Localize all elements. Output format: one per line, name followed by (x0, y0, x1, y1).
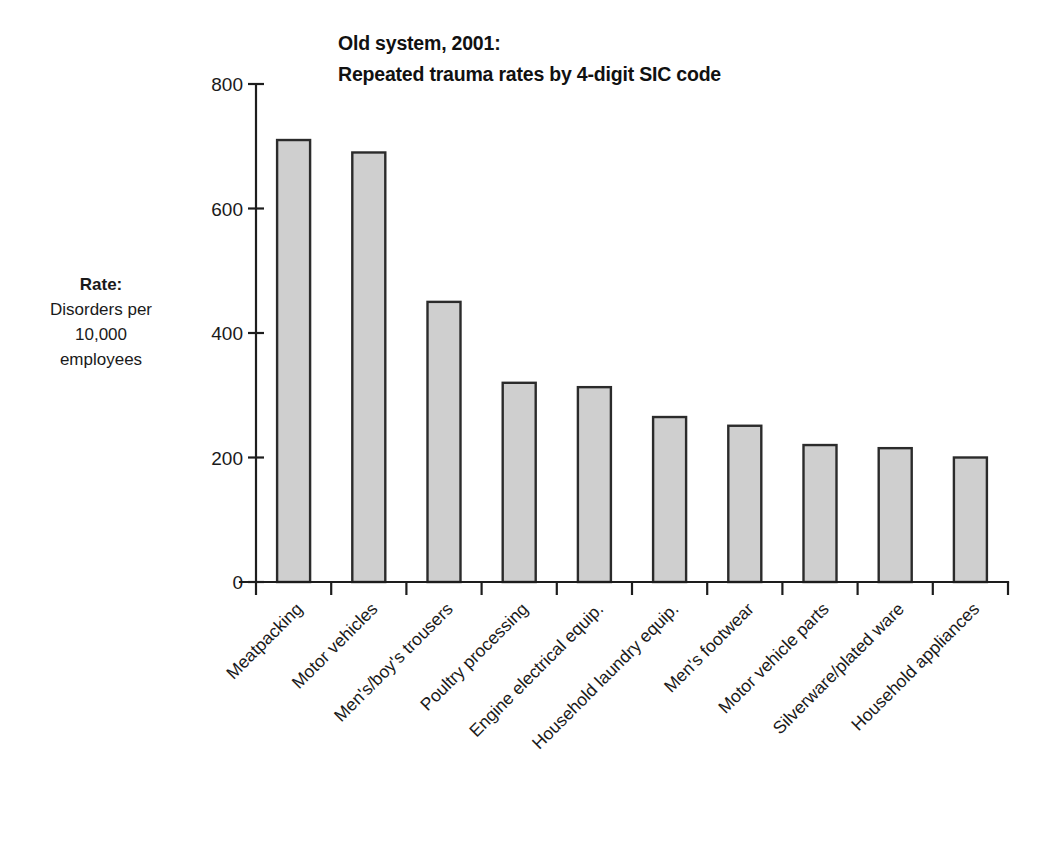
chart-figure: Old system, 2001: Repeated trauma rates … (0, 0, 1045, 852)
y-tick-label: 600 (211, 199, 243, 220)
x-tick-label: Silverware/plated ware (769, 599, 908, 738)
bar (879, 448, 912, 582)
x-tick-label: Household laundry equip. (528, 599, 682, 753)
y-tick-label: 800 (211, 74, 243, 95)
bar (428, 302, 461, 582)
bar (653, 417, 686, 582)
category-label-group: MeatpackingMotor vehiclesMen's/boy's tro… (222, 599, 983, 754)
x-tick-label: Meatpacking (222, 599, 306, 683)
bar (277, 140, 310, 582)
y-tick-label-group: 0200400600800 (211, 74, 243, 593)
plot-area: 0200400600800 MeatpackingMotor vehiclesM… (0, 0, 1045, 852)
bar-group (277, 140, 987, 582)
x-tick-label: Engine electrical equip. (465, 599, 607, 741)
x-tick-label: Household appliances (847, 599, 983, 735)
bar (728, 426, 761, 582)
bar (352, 152, 385, 582)
bar (954, 458, 987, 583)
y-tick-label: 400 (211, 323, 243, 344)
bar (804, 445, 837, 582)
bar (578, 387, 611, 582)
bar (503, 383, 536, 582)
y-tick-label: 200 (211, 448, 243, 469)
